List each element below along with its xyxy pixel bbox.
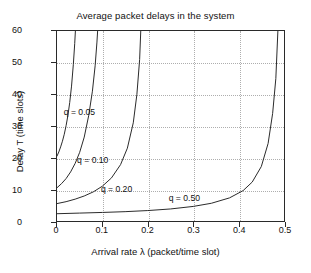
y-tick-mark (51, 190, 56, 191)
chart-title: Average packet delays in the system (0, 10, 311, 21)
x-tick-label: 0 (36, 225, 76, 235)
chart-figure: Average packet delays in the system 0102… (0, 0, 311, 273)
curve-label-2: q = 0.20 (101, 184, 132, 194)
y-axis-label: Delay T (time slots) (14, 57, 25, 207)
y-tick-mark (51, 94, 56, 95)
y-tick-mark (51, 126, 56, 127)
curve-3 (57, 31, 278, 214)
y-tick-label: 0 (0, 217, 22, 227)
x-tick-label: 0.4 (219, 225, 259, 235)
x-tick-label: 0.3 (173, 225, 213, 235)
curve-label-1: q = 0.10 (77, 155, 108, 165)
y-tick-mark (51, 62, 56, 63)
curve-label-3: q = 0.50 (169, 193, 200, 203)
curve-2 (57, 31, 141, 204)
curve-label-0: q = 0.05 (64, 107, 95, 117)
y-tick-mark (51, 30, 56, 31)
curve-0 (57, 31, 75, 156)
x-tick-label: 0.5 (265, 225, 305, 235)
y-tick-mark (51, 158, 56, 159)
x-tick-label: 0.1 (82, 225, 122, 235)
y-tick-label: 60 (0, 25, 22, 35)
x-axis-label: Arrival rate λ (packet/time slot) (0, 246, 311, 257)
x-tick-label: 0.2 (128, 225, 168, 235)
